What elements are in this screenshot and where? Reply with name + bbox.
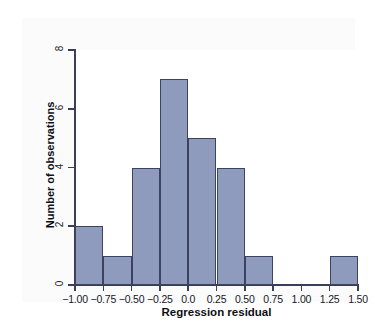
x-axis-tick — [216, 285, 218, 291]
histogram-bar — [245, 256, 273, 285]
histogram-bar — [75, 226, 103, 285]
x-axis-tick — [272, 285, 274, 291]
y-axis-title: Number of observations — [44, 80, 56, 250]
figure-panel-inner: 02468 −1.00−0.75−0.50−0.250.00.250.500.7… — [22, 18, 355, 302]
figure-panel: 02468 −1.00−0.75−0.50−0.250.00.250.500.7… — [22, 18, 355, 302]
x-axis-tick — [329, 285, 331, 291]
x-axis-tick — [357, 285, 359, 291]
y-axis-tick — [68, 167, 74, 169]
histogram-bar — [160, 79, 188, 285]
x-axis-tick — [74, 285, 76, 291]
y-axis-tick — [68, 225, 74, 227]
histogram-bar — [330, 256, 358, 285]
x-axis-tick — [187, 285, 189, 291]
x-axis-tick — [301, 285, 303, 291]
histogram-bar — [103, 256, 131, 285]
x-axis-tick — [131, 285, 133, 291]
histogram-bar — [132, 168, 160, 286]
histogram-bar — [188, 138, 216, 285]
x-axis-tick — [159, 285, 161, 291]
y-axis-tick — [68, 49, 74, 51]
x-axis-tick — [103, 285, 105, 291]
histogram-bar — [217, 168, 245, 286]
histogram-figure: 02468 −1.00−0.75−0.50−0.250.00.250.500.7… — [0, 0, 381, 321]
y-axis-tick-label: 8 — [54, 42, 65, 56]
x-axis-tick-label: 1.50 — [336, 293, 380, 305]
y-axis-tick — [68, 284, 74, 286]
x-axis-tick — [244, 285, 246, 291]
x-axis-title: Regression residual — [75, 306, 358, 318]
y-axis-tick-label: 0 — [54, 277, 65, 291]
y-axis-tick — [68, 108, 74, 110]
